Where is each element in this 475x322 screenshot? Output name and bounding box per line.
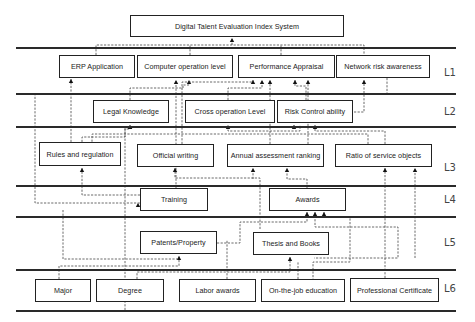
node-annual: Annual assessment ranking xyxy=(227,144,324,167)
node-label: Computer operation level xyxy=(144,62,226,71)
node-ratio: Ratio of service objects xyxy=(335,144,432,167)
level-label-l2: L2 xyxy=(444,106,456,117)
arrowhead-icon xyxy=(383,168,387,172)
arrowhead-icon xyxy=(230,38,234,42)
arrowhead-icon xyxy=(288,257,292,261)
node-label: Thesis and Books xyxy=(262,239,320,248)
level-separator-line xyxy=(16,185,456,187)
arrowhead-icon xyxy=(173,168,177,172)
level-separator-line xyxy=(16,269,456,271)
edge-degree2-to-thesis xyxy=(137,257,290,279)
node-label: Risk Control ability xyxy=(285,107,346,116)
arrowhead-icon xyxy=(69,79,73,83)
node-legal: Legal Knowledge xyxy=(93,100,169,123)
node-major: Major xyxy=(35,279,91,302)
arrowhead-icon xyxy=(80,168,84,172)
node-label: Professional Certificate xyxy=(357,286,432,295)
level-label-l6: L6 xyxy=(444,283,456,294)
arrowhead-icon xyxy=(413,168,417,172)
edge-ratio-to-risk2 xyxy=(92,134,368,144)
level-label-l3: L3 xyxy=(444,162,456,173)
node-labor: Labor awards xyxy=(179,279,256,302)
level-separator-line xyxy=(16,216,456,218)
arrowhead-icon xyxy=(285,168,289,172)
level-label-l4: L4 xyxy=(444,194,456,205)
node-label: Ratio of service objects xyxy=(346,151,422,160)
node-writing: Official writing xyxy=(137,144,214,167)
node-net: Network risk awareness xyxy=(336,55,430,78)
arrowhead-icon xyxy=(251,80,255,84)
arrowhead-icon xyxy=(177,256,181,260)
node-label: Official writing xyxy=(153,151,198,160)
edge-training-to-rules xyxy=(82,168,140,195)
node-risk: Risk Control ability xyxy=(277,100,353,123)
edge-risk-to-perf xyxy=(295,80,306,100)
edge-risk-to-net xyxy=(354,80,364,112)
node-label: Awards xyxy=(295,195,319,204)
node-label: On-the-job education xyxy=(269,286,337,295)
arrowhead-icon xyxy=(268,80,272,84)
node-label: Training xyxy=(161,195,187,204)
node-onjob: On-the-job education xyxy=(261,279,345,302)
diagram-canvas: L1L2L3L4L5L6Digital Talent Evaluation In… xyxy=(0,0,475,322)
node-label: Network risk awareness xyxy=(344,62,421,71)
node-cert: Professional Certificate xyxy=(350,278,439,302)
node-degree: Degree xyxy=(96,279,164,302)
node-label: Rules and regulation xyxy=(47,150,114,159)
node-label: Patents/Property xyxy=(151,238,205,247)
node-erp: ERP Application xyxy=(59,55,135,78)
node-label: Major xyxy=(54,286,72,295)
node-cross: Cross operation Level xyxy=(185,100,275,123)
level-separator-line xyxy=(16,93,456,95)
node-root: Digital Talent Evaluation Index System xyxy=(130,15,344,37)
node-comp: Computer operation level xyxy=(137,55,233,78)
arrowhead-icon xyxy=(251,168,255,172)
node-rules: Rules and regulation xyxy=(39,142,121,166)
node-perf: Performance Appraisal xyxy=(238,55,335,78)
level-separator-line xyxy=(16,310,456,312)
edge-cross-to-perf xyxy=(228,80,262,100)
edge-major-to-patents xyxy=(59,256,179,279)
node-label: Annual assessment ranking xyxy=(231,151,321,160)
node-label: Labor awards xyxy=(195,286,239,295)
node-patents: Patents/Property xyxy=(140,231,217,254)
node-training: Training xyxy=(140,188,208,211)
node-label: ERP Application xyxy=(71,62,123,71)
arrowhead-icon xyxy=(260,80,264,84)
node-label: Legal Knowledge xyxy=(103,107,159,116)
level-separator-line xyxy=(16,126,456,128)
level-separator-line xyxy=(16,47,456,49)
arrowhead-icon xyxy=(306,80,310,84)
node-label: Cross operation Level xyxy=(195,107,266,116)
edge-legal-to-comp xyxy=(130,80,189,100)
node-label: Digital Talent Evaluation Index System xyxy=(175,22,299,31)
level-label-l1: L1 xyxy=(444,67,456,78)
arrowhead-icon xyxy=(362,80,366,84)
node-awards: Awards xyxy=(269,188,346,211)
node-label: Degree xyxy=(118,286,142,295)
arrowhead-icon xyxy=(293,80,297,84)
arrowhead-icon xyxy=(174,80,178,84)
node-label: Performance Appraisal xyxy=(250,62,324,71)
node-thesis: Thesis and Books xyxy=(253,232,329,255)
level-label-l5: L5 xyxy=(444,237,456,248)
arrowhead-icon xyxy=(187,80,191,84)
